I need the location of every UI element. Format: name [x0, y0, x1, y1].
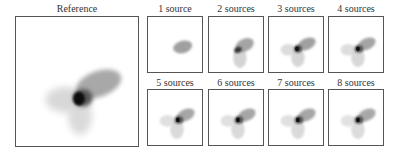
reconstruction-icon	[269, 17, 323, 72]
reconstruction-icon	[269, 90, 323, 145]
panel-7-sources: 7 sources	[268, 77, 324, 147]
panel-image	[208, 16, 264, 73]
panel-title: 8 sources	[328, 77, 384, 88]
panel-2-sources: 2 sources	[208, 3, 264, 73]
panel-image	[268, 89, 324, 146]
panel-image	[328, 16, 384, 73]
panel-title: 6 sources	[208, 77, 264, 88]
reference-panel: Reference	[15, 3, 139, 147]
reconstruction-icon	[148, 17, 202, 72]
reconstruction-icon	[209, 90, 263, 145]
panel-image	[208, 89, 264, 146]
reference-image	[15, 16, 139, 147]
reconstruction-icon	[209, 17, 263, 72]
panel-image	[328, 89, 384, 146]
panel-image	[268, 16, 324, 73]
panel-4-sources: 4 sources	[328, 3, 384, 73]
panel-title: 3 sources	[268, 3, 324, 14]
panel-image	[147, 89, 203, 146]
panel-image	[147, 16, 203, 73]
reference-title: Reference	[15, 3, 139, 14]
panel-1-source: 1 source	[147, 3, 203, 73]
reconstruction-icon	[329, 90, 383, 145]
reference-blob-icon	[16, 17, 138, 146]
panel-3-sources: 3 sources	[268, 3, 324, 73]
panel-6-sources: 6 sources	[208, 77, 264, 147]
panel-8-sources: 8 sources	[328, 77, 384, 147]
reconstruction-icon	[329, 17, 383, 72]
panel-title: 7 sources	[268, 77, 324, 88]
panel-title: 1 source	[147, 3, 203, 14]
panel-5-sources: 5 sources	[147, 77, 203, 147]
panel-title: 4 sources	[328, 3, 384, 14]
reconstruction-icon	[148, 90, 202, 145]
panel-title: 5 sources	[147, 77, 203, 88]
panel-title: 2 sources	[208, 3, 264, 14]
